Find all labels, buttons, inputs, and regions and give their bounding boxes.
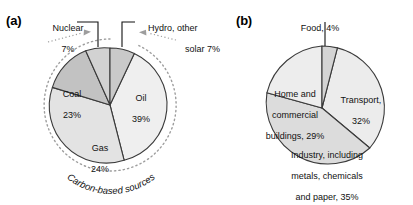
slice-label-hydro: Hydro, other solar 7% (138, 12, 210, 65)
figure-two-pie-charts: (a) (b) (0, 0, 413, 205)
slice-label-home-line1: Home and (274, 89, 316, 99)
slice-label-nuclear: Nuclear 7% (40, 12, 86, 65)
slice-label-food-text: Food, 4% (301, 23, 340, 33)
slice-label-gas-value: 24% (91, 164, 109, 174)
slice-label-industry-line1: Industry, including (291, 150, 363, 160)
slice-label-transport-line2: 32% (352, 116, 370, 126)
slice-label-oil-name: Oil (136, 93, 147, 103)
slice-label-transport: Transport, 32% (330, 84, 382, 137)
slice-label-oil-value: 39% (132, 114, 150, 124)
slice-label-food: Food, 4% (287, 12, 343, 44)
leader-line-hydro (122, 22, 135, 47)
slice-label-gas: Gas 24% (75, 132, 115, 185)
slice-label-industry-line2: metals, chemicals (291, 171, 363, 181)
slice-label-hydro-line1: Hydro, other (148, 23, 198, 33)
slice-label-hydro-line2: solar 7% (148, 44, 220, 55)
slice-label-nuclear-name: Nuclear (53, 23, 84, 33)
slice-label-industry-line3: and paper, 35% (295, 192, 358, 202)
slice-label-coal-value: 23% (63, 110, 81, 120)
slice-label-coal: Coal 23% (45, 78, 89, 131)
slice-label-coal-name: Coal (63, 89, 82, 99)
slice-label-gas-name: Gas (92, 143, 109, 153)
slice-label-oil: Oil 39% (118, 82, 154, 135)
slice-label-transport-line1: Transport, (341, 95, 382, 105)
slice-label-nuclear-value: 7% (62, 44, 75, 54)
slice-label-home-line2: commercial (272, 110, 318, 120)
slice-label-industry: Industry, including metals, chemicals an… (272, 139, 372, 205)
